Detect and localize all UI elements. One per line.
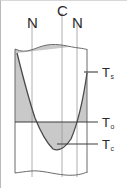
temperature-subscript-ts: s — [110, 73, 114, 80]
temperature-label-ts: Ts — [102, 66, 113, 79]
temperature-symbol-tc: T — [102, 137, 110, 152]
temperature-symbol-ts: T — [102, 65, 110, 80]
temperature-label-to: To — [102, 116, 114, 129]
temperature-subscript-to: o — [110, 123, 114, 130]
figure-canvas — [1, 1, 127, 188]
temperature-subscript-tc: c — [110, 145, 114, 152]
temperature-profile-figure: N C N Ts To Tc — [0, 0, 127, 188]
temperature-label-tc: Tc — [102, 138, 113, 151]
section-label-center: C — [57, 3, 68, 18]
temperature-symbol-to: T — [102, 115, 110, 130]
section-label-n-right: N — [72, 15, 83, 30]
section-label-n-left: N — [27, 15, 38, 30]
bottom-break-edge — [15, 171, 87, 175]
